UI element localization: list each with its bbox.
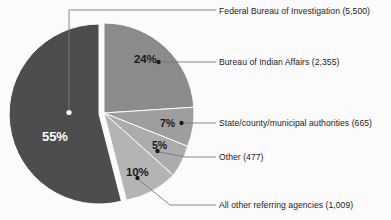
callout-label-bureau-of-indian-affairs: Bureau of Indian Affairs (2,355): [219, 57, 339, 67]
slice-percent-all-other: 10%: [126, 166, 149, 178]
callout-label-other: Other (477): [219, 152, 264, 162]
pie-chart-figure: 55% 24% 7% 5% 10% Federal Bureau of Inve…: [0, 0, 391, 220]
pie-chart-canvas: [0, 0, 391, 220]
slice-percent-other: 5%: [152, 139, 167, 151]
callout-label-all-other-referring-agencies: All other referring agencies (1,009): [219, 200, 353, 210]
slice-percent-fbi: 55%: [42, 129, 68, 144]
slice-percent-bia: 24%: [134, 53, 157, 65]
pie-slice-bureau-of-indian-affairs[interactable]: [104, 23, 194, 113]
callout-label-federal-bureau-of-investigation: Federal Bureau of Investigation (5,500): [219, 6, 370, 16]
leader-dot-fbi: [66, 110, 71, 115]
leader-dot-bia: [156, 60, 160, 64]
leader-dot-state: [179, 121, 183, 125]
callout-label-state-county-municipal-authorities: State/county/municipal authorities (665): [219, 118, 372, 128]
slice-percent-state: 7%: [160, 117, 175, 129]
pie-slice-group: [104, 23, 194, 200]
